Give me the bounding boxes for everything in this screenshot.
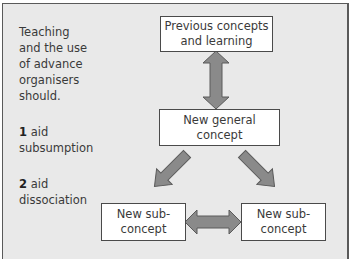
arrow-down-right-icon [234, 146, 282, 194]
node-label: New sub- [257, 207, 310, 222]
node-sub-concept-right: New sub- concept [241, 203, 326, 241]
double-arrow-horizontal-icon [185, 210, 241, 234]
double-arrow-vertical-icon [203, 51, 229, 109]
node-label: New general [183, 113, 255, 128]
node-label: and learning [164, 34, 268, 49]
node-sub-concept-left: New sub- concept [101, 203, 186, 241]
node-label: concept [183, 128, 255, 143]
node-label: concept [257, 222, 310, 237]
arrow-down-left-icon [147, 146, 195, 194]
node-label: Previous concepts [164, 19, 268, 34]
node-label: New sub- [117, 207, 170, 222]
node-label: concept [117, 222, 170, 237]
node-new-general-concept: New general concept [159, 109, 280, 146]
node-previous-concepts: Previous concepts and learning [160, 16, 273, 52]
